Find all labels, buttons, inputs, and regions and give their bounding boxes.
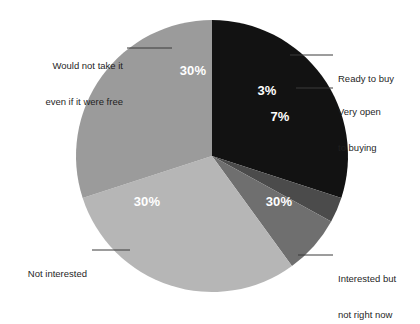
category-label-would-not-take-it-line1: Would not take it: [8, 60, 123, 72]
category-label-very-open-to-buying[interactable]: Very open to buying: [338, 82, 418, 178]
category-label-very-open-to-buying-line2: to buying: [338, 142, 418, 154]
category-label-interested-but-not-right-now-line2: not right now: [338, 309, 420, 321]
category-label-not-interested[interactable]: Not interested: [5, 244, 87, 304]
category-label-very-open-to-buying-line1: Very open: [338, 106, 418, 118]
value-label-ready-to-buy: 3%: [257, 83, 276, 98]
category-label-interested-but-not-right-now[interactable]: Interested but not right now: [338, 249, 420, 324]
value-label-would-not-take-it: 30%: [180, 63, 207, 78]
category-label-interested-but-not-right-now-line1: Interested but: [338, 273, 420, 285]
category-label-would-not-take-it-line2: even if it were free: [8, 96, 123, 108]
category-label-not-interested-line1: Not interested: [5, 268, 87, 280]
category-label-would-not-take-it[interactable]: Would not take it even if it were free: [8, 36, 123, 132]
value-label-very-open-to-buying: 7%: [270, 109, 289, 124]
value-label-not-interested: 30%: [134, 194, 161, 209]
value-label-interested-but-not-right-now: 30%: [266, 194, 293, 209]
